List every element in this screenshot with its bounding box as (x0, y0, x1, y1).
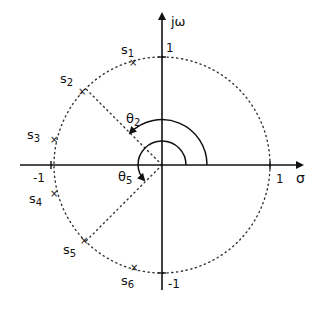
pole-label-s2: s2 (60, 71, 73, 88)
tick-label-y-neg: -1 (168, 277, 180, 291)
angle-label-theta2: θ2 (126, 111, 140, 128)
jw-axis-label: jω (170, 14, 186, 29)
pole-marker-s5: × (80, 235, 88, 246)
tick-label-x-neg: -1 (33, 171, 45, 185)
pole-marker-s2: × (78, 86, 86, 97)
pole-label-s6: s6 (121, 273, 134, 290)
pole-label-s4: s4 (29, 191, 42, 208)
angle-label-theta5: θ5 (118, 169, 132, 186)
tick-label-x-pos: 1 (276, 172, 284, 186)
pole-marker-s3: × (50, 134, 58, 145)
radius-line-s2 (86, 89, 162, 165)
s-plane-diagram: jω σ 1 -1 1 -1 × × × × × × s1 s2 s3 s4 s… (0, 0, 321, 311)
pole-label-s3: s3 (27, 127, 40, 144)
pole-label-s5: s5 (63, 242, 76, 259)
theta5-arc-b (138, 165, 144, 180)
pole-marker-s4: × (50, 188, 58, 199)
tick-label-y-pos: 1 (166, 41, 174, 55)
pole-marker-s6: × (130, 262, 138, 273)
sigma-axis-label: σ (296, 170, 305, 186)
diagram-canvas: jω σ 1 -1 1 -1 × × × × × × s1 s2 s3 s4 s… (0, 0, 321, 311)
pole-label-s1: s1 (121, 42, 134, 59)
